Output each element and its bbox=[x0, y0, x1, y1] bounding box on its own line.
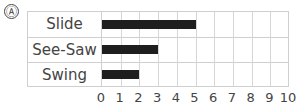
x-tick-label: 1 bbox=[116, 90, 124, 105]
bar-chart: Slide See-Saw Swing bbox=[27, 11, 289, 87]
x-tick-label: 5 bbox=[190, 90, 198, 105]
category-label: Swing bbox=[28, 63, 102, 87]
x-tick-label: 2 bbox=[134, 90, 142, 105]
bar-slide bbox=[102, 20, 196, 29]
x-tick-label: 4 bbox=[172, 90, 180, 105]
x-tick-label: 10 bbox=[280, 90, 297, 105]
x-tick-label: 8 bbox=[246, 90, 254, 105]
x-tick-label: 6 bbox=[209, 90, 217, 105]
grid-line bbox=[270, 12, 271, 86]
grid-line bbox=[196, 12, 197, 86]
bar-see-saw bbox=[102, 45, 158, 54]
category-label: See-Saw bbox=[28, 38, 102, 62]
x-tick-label: 9 bbox=[265, 90, 273, 105]
x-tick-label: 3 bbox=[153, 90, 161, 105]
category-label: Slide bbox=[28, 12, 102, 37]
grid-line bbox=[252, 12, 253, 86]
panel-marker-a: Ⓐ bbox=[4, 4, 19, 19]
x-tick-label: 7 bbox=[228, 90, 236, 105]
grid-line bbox=[214, 12, 215, 86]
x-tick-label: 0 bbox=[97, 90, 105, 105]
grid-line bbox=[233, 12, 234, 86]
bar-swing bbox=[102, 70, 139, 79]
